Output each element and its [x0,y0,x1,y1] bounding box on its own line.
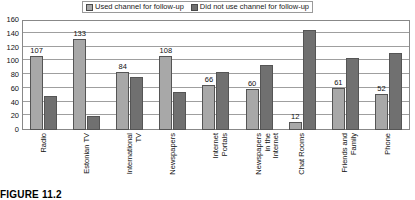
y-axis-tick-label: 60 [11,85,19,93]
bar [216,72,229,130]
bar-group [65,20,108,130]
bar-group [151,20,194,130]
legend-label-not-used: Did not use channel for follow-up [200,3,309,11]
bar [159,56,172,130]
bar [260,65,273,130]
y-axis-tick-label: 160 [6,16,19,24]
bar-group [108,20,151,130]
bar [87,116,100,130]
legend-swatch-used-icon [86,4,93,11]
x-axis-category-label: Newspapers [169,133,178,189]
y-axis-tick-label: 80 [11,71,19,79]
x-axis-category-label: Internet Portals [212,133,229,189]
legend-entry-used: Used channel for follow-up [86,3,184,11]
bar [116,72,129,130]
x-axis: RadioEstonian TVInternational TVNewspape… [22,131,410,187]
bar [289,122,302,130]
x-axis-category-label: Estonian TV [83,133,92,189]
y-axis-tick-label: 100 [6,57,19,65]
bar [346,58,359,130]
bar [44,96,57,130]
bar [130,77,143,130]
bar [332,88,345,130]
bar [303,30,316,130]
bar [375,94,388,130]
figure-container: Used channel for follow-up Did not use c… [0,0,415,200]
y-axis-tick-label: 40 [11,99,19,107]
chart-legend: Used channel for follow-up Did not use c… [82,1,313,13]
bar-group [194,20,237,130]
legend-swatch-not-used-icon [191,4,198,11]
bar [30,56,43,130]
legend-entry-not-used: Did not use channel for follow-up [191,3,309,11]
bar [173,92,186,131]
bar-group [281,20,324,130]
x-axis-category-label: Radio [40,133,49,189]
bar-group [238,20,281,130]
y-axis-tick-label: 0 [15,126,19,134]
bar-group [324,20,367,130]
y-axis-tick-label: 140 [6,30,19,38]
x-axis-category-label: Newspapers in the Internet [255,133,281,189]
bars-layer: 107133841086660126152 [22,20,410,130]
bar-group [367,20,410,130]
y-axis-tick-label: 20 [11,112,19,120]
bar-group [22,20,65,130]
legend-label-used: Used channel for follow-up [95,3,184,11]
x-axis-category-label: Friends and Family [341,133,358,189]
bar [389,53,402,130]
bar [246,89,259,130]
y-axis-tick-label: 120 [6,44,19,52]
y-axis: 020406080100120140160 [0,20,22,130]
bar [73,39,86,130]
figure-caption: FIGURE 11.2 [0,189,62,200]
x-axis-category-label: Chat Rooms [298,133,307,189]
bar [202,85,215,130]
x-axis-category-label: Phone [384,133,393,189]
x-axis-category-label: International TV [126,133,143,189]
